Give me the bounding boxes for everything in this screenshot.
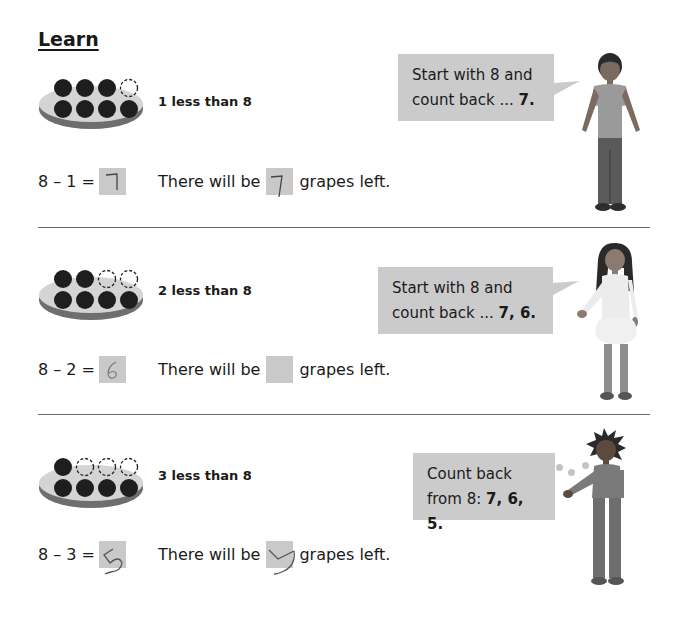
handwritten-5-icon bbox=[266, 541, 298, 577]
bubble-2-line1: Start with 8 and bbox=[392, 276, 539, 301]
sentence-3-before: There will be bbox=[158, 545, 260, 564]
sentence-2-after: grapes left. bbox=[299, 360, 390, 379]
sentence-1-answer-box[interactable] bbox=[266, 168, 293, 195]
bubble-2-line2-bold: 7, 6. bbox=[499, 304, 537, 322]
sentence-2-answer-box[interactable] bbox=[266, 356, 293, 383]
bubble-1-line2-bold: 7. bbox=[519, 91, 535, 109]
equation-3-answer-box[interactable] bbox=[99, 541, 126, 568]
handwritten-5-icon bbox=[99, 541, 126, 575]
sentence-1-after: grapes left. bbox=[299, 172, 390, 191]
handwritten-7-icon bbox=[266, 168, 293, 198]
grape-plate-1-icon bbox=[36, 73, 148, 133]
sentence-2: There will be grapes left. bbox=[158, 356, 390, 383]
caption-3: 3 less than 8 bbox=[158, 468, 252, 483]
equation-2-answer-box[interactable] bbox=[99, 356, 126, 383]
bubble-1-line1: Start with 8 and bbox=[412, 63, 540, 88]
thought-bubble-3: Count back from 8: 7, 6, 5. bbox=[413, 453, 555, 520]
equation-3: 8 – 3 = bbox=[38, 541, 126, 568]
handwritten-6-icon bbox=[99, 356, 126, 383]
bubble-2-line2-text: count back ... bbox=[392, 304, 499, 322]
sentence-1-before: There will be bbox=[158, 172, 260, 191]
bubble-1-line2: count back ... 7. bbox=[412, 88, 540, 113]
bubble-1-line2-text: count back ... bbox=[412, 91, 519, 109]
grape-plate-3-icon bbox=[36, 452, 148, 512]
sentence-3-answer-box[interactable] bbox=[266, 541, 293, 568]
caption-2: 2 less than 8 bbox=[158, 283, 252, 298]
equation-2: 8 – 2 = bbox=[38, 356, 126, 383]
grape-plate-2-icon bbox=[36, 264, 148, 324]
equation-1: 8 – 1 = bbox=[38, 168, 126, 195]
sentence-1: There will be grapes left. bbox=[158, 168, 390, 195]
sentence-3: There will be grapes left. bbox=[158, 541, 390, 568]
character-boy-2-icon bbox=[562, 426, 652, 591]
bubble-2-line2: count back ... 7, 6. bbox=[392, 301, 539, 326]
page-title: Learn bbox=[38, 28, 99, 50]
bubble-3-line2-text: from 8: bbox=[427, 490, 486, 508]
character-boy-1-icon bbox=[570, 50, 650, 215]
equation-3-prefix: 8 – 3 = bbox=[38, 545, 95, 564]
caption-1: 1 less than 8 bbox=[158, 94, 252, 109]
handwritten-7-icon bbox=[99, 168, 126, 195]
bubble-3-line2: from 8: 7, 6, 5. bbox=[427, 487, 541, 537]
equation-2-prefix: 8 – 2 = bbox=[38, 360, 95, 379]
section-divider-2 bbox=[38, 414, 650, 415]
section-divider-1 bbox=[38, 227, 650, 228]
sentence-3-after: grapes left. bbox=[299, 545, 390, 564]
bubble-3-line1: Count back bbox=[427, 462, 541, 487]
equation-1-prefix: 8 – 1 = bbox=[38, 172, 95, 191]
equation-1-answer-box[interactable] bbox=[99, 168, 126, 195]
character-girl-icon bbox=[572, 240, 652, 405]
speech-bubble-1: Start with 8 and count back ... 7. bbox=[398, 54, 554, 121]
sentence-2-before: There will be bbox=[158, 360, 260, 379]
speech-bubble-2: Start with 8 and count back ... 7, 6. bbox=[378, 267, 553, 334]
